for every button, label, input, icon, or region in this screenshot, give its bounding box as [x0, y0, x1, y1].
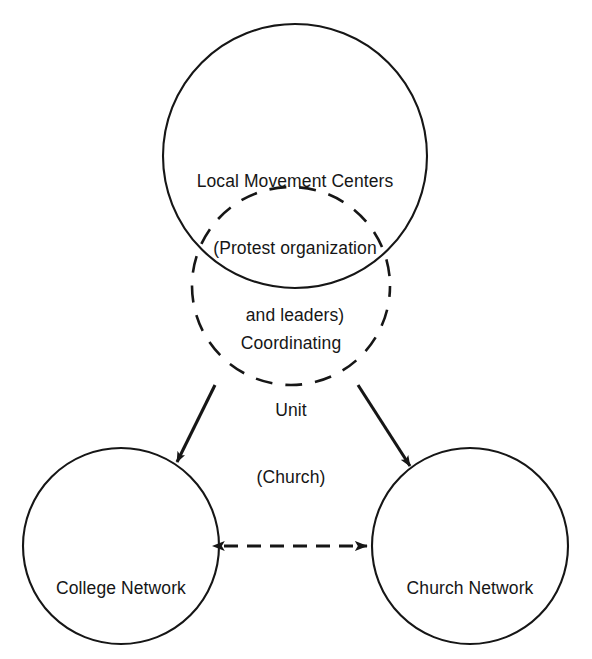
node-circle-local-movement-centers — [163, 24, 427, 288]
node-circle-college-network — [23, 448, 219, 644]
diagram-canvas: Local Movement Centers (Protest organiza… — [0, 0, 592, 659]
node-circle-church-network — [372, 448, 568, 644]
diagram-graphics — [0, 0, 592, 659]
node-circle-coordinating-unit — [192, 187, 390, 385]
edge-coordinating-unit-to-church-network — [358, 385, 410, 466]
edge-coordinating-unit-to-college-network — [177, 385, 215, 462]
